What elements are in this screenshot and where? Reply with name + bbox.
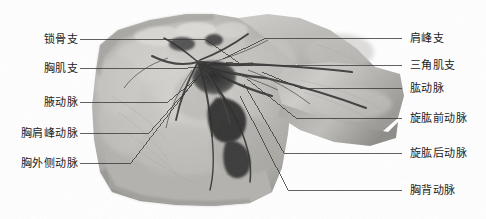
leader-clavicular-branch [80,39,239,63]
label-lateral-thoracic-artery: 胸外侧动脉 [21,157,78,169]
label-posterior-circumflex-humeral-artery: 旋肱后动脉 [410,147,467,159]
leader-pectoral-branch [80,64,231,68]
label-axillary-artery: 腋动脉 [44,96,78,108]
leader-axillary-artery [80,64,214,102]
label-pectoral-branch: 胸肌支 [44,62,78,74]
label-clavicular-branch: 锁骨支 [44,33,78,45]
leader-thoracodorsal-artery [240,96,402,190]
leader-brachial-artery [262,72,402,88]
leader-lateral-thoracic-artery [80,70,203,163]
label-anterior-circumflex-humeral-artery: 旋肱前动脉 [410,112,467,124]
leader-thoracoacromial-artery [80,66,208,133]
leader-deltoid-branch [226,62,402,65]
leader-anterior-circumflex-humeral-artery [247,79,402,118]
leader-posterior-circumflex-humeral-artery [244,84,402,153]
label-thoracoacromial-artery: 胸肩峰动脉 [21,127,78,139]
label-deltoid-branch: 三角肌支 [410,59,456,71]
label-brachial-artery: 肱动脉 [410,82,444,94]
label-acromial-branch: 肩峰支 [410,32,444,44]
anatomy-figure: 锁骨支 胸肌支 腋动脉 胸肩峰动脉 胸外侧动脉 肩峰支 三角肌支 肱动脉 旋肱前… [0,0,486,219]
leader-acromial-branch [223,38,402,59]
label-thoracodorsal-artery: 胸背动脉 [410,184,456,196]
